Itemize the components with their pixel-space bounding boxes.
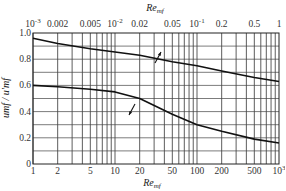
top-tick-label: 0.002 xyxy=(47,19,69,29)
y-tick-label: 0.8 xyxy=(19,54,31,64)
bottom-tick-label: 2 xyxy=(55,166,60,176)
y-axis-title: umf / u'mf xyxy=(0,77,11,118)
bottom-tick-label: 1 xyxy=(31,166,36,176)
top-tick-label: 10-2 xyxy=(107,17,123,29)
bottom-axis-title: Remf xyxy=(142,177,162,190)
top-axis-tick-labels: 10-30.0020.00510-20.020.0510-10.20.51 xyxy=(25,17,281,29)
data-curves xyxy=(33,38,279,143)
top-tick-label: 0.2 xyxy=(216,19,228,29)
top-tick-label: 10-1 xyxy=(189,17,205,29)
bottom-tick-label: 100 xyxy=(190,166,205,176)
y-tick-label: 0.4 xyxy=(19,107,31,117)
bottom-tick-label: 500 xyxy=(247,166,262,176)
arrow-up-icon xyxy=(155,52,161,63)
upper-curve xyxy=(33,38,279,81)
chart: 10-30.0020.00510-20.020.0510-10.20.51 12… xyxy=(0,0,285,191)
bottom-tick-label: 50 xyxy=(168,166,178,176)
bottom-tick-label: 20 xyxy=(135,166,145,176)
grid-lines xyxy=(33,33,279,164)
bottom-tick-label: 103 xyxy=(273,164,286,176)
arrow-down-icon xyxy=(129,104,135,115)
top-tick-label: 0.005 xyxy=(80,19,102,29)
y-tick-label: 0 xyxy=(26,159,31,169)
lower-curve xyxy=(33,85,279,143)
top-tick-label: 1 xyxy=(277,19,282,29)
y-tick-label: 0.2 xyxy=(19,133,31,143)
top-tick-label: 0.02 xyxy=(131,19,148,29)
bottom-tick-label: 5 xyxy=(88,166,93,176)
bottom-axis-tick-labels: 125102050100200500103 xyxy=(31,164,285,176)
y-tick-label: 0.6 xyxy=(19,80,31,90)
y-tick-label: 1.0 xyxy=(19,28,31,38)
top-axis-title: Remf xyxy=(145,2,165,15)
top-tick-label: 0.05 xyxy=(164,19,181,29)
y-axis-tick-labels: 00.20.40.60.81.0 xyxy=(19,28,31,169)
arrow-annotations xyxy=(129,52,161,115)
bottom-tick-label: 10 xyxy=(110,166,120,176)
top-tick-label: 0.5 xyxy=(248,19,260,29)
bottom-tick-label: 200 xyxy=(215,166,230,176)
